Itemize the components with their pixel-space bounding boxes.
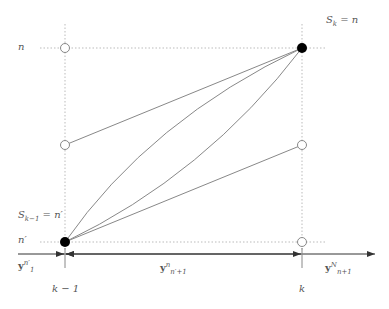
label-y-right: yNn+1 [325,262,352,276]
label-y1: yn′1 [18,260,34,274]
node-left-mid [61,141,70,150]
label-n-prime: n′ [18,235,27,245]
node-right-mid [298,141,307,150]
label-n: n [18,42,24,52]
time-axis [18,248,375,268]
label-k-minus-1: k − 1 [52,284,79,294]
nodes [60,43,307,247]
trellis-paths [65,48,302,242]
label-s-k: Sk = n [326,15,358,28]
node-left-top [61,44,70,53]
node-right-bottom [298,238,307,247]
node-right-top [297,43,307,53]
label-y-mid: ynn′+1 [160,262,187,276]
label-k: k [299,284,305,294]
node-left-bottom [60,237,70,247]
label-s-k-minus-1: Sk−1 = n′ [18,210,63,223]
